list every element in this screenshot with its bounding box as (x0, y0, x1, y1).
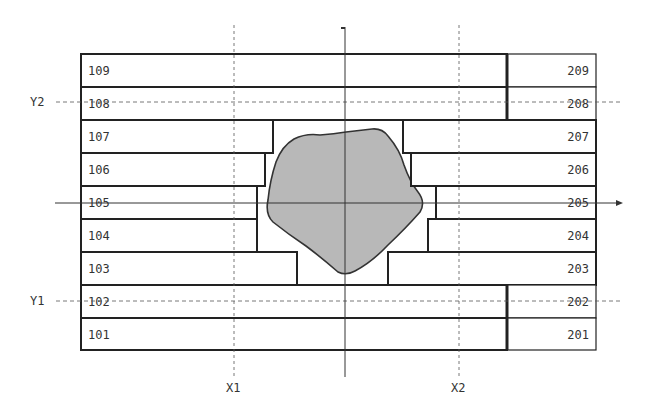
left-box-label: 108 (88, 97, 110, 111)
x1-label: X1 (226, 381, 240, 395)
right-box-204: 204 (428, 219, 596, 252)
left-box-label: 104 (88, 229, 110, 243)
right-box-206: 206 (411, 153, 596, 186)
left-box-label: 107 (88, 130, 110, 144)
axis-arrow-icon (616, 200, 623, 206)
left-box-rect (81, 318, 507, 350)
right-box-label: 202 (567, 295, 589, 309)
left-box-101: 101 (81, 318, 507, 350)
right-box-label: 204 (567, 229, 589, 243)
right-box-label: 206 (567, 163, 589, 177)
left-box-106: 106 (81, 153, 265, 186)
right-box-203: 203 (388, 252, 596, 285)
left-box-rect (81, 252, 297, 285)
left-box-label: 109 (88, 64, 110, 78)
left-box-103: 103 (81, 252, 297, 285)
left-box-rect (81, 120, 273, 153)
x2-label: X2 (451, 381, 465, 395)
y1-label: Y1 (30, 294, 44, 308)
right-box-208: 208 (507, 87, 596, 120)
axis-top-tick (341, 27, 345, 29)
left-box-108: 108 (81, 87, 507, 120)
right-box-rect (388, 252, 596, 285)
right-box-201: 201 (507, 318, 596, 350)
left-box-label: 101 (88, 328, 110, 342)
y2-label: Y2 (30, 95, 44, 109)
right-box-label: 209 (567, 64, 589, 78)
left-box-107: 107 (81, 120, 273, 153)
left-box-102: 102 (81, 285, 507, 318)
left-box-label: 106 (88, 163, 110, 177)
left-box-rect (81, 285, 507, 318)
left-box-rect (81, 54, 507, 87)
layout-diagram: 109108107106105104103102101 209208207206… (0, 0, 651, 420)
right-box-label: 203 (567, 262, 589, 276)
right-box-209: 209 (507, 54, 596, 87)
right-box-207: 207 (403, 120, 596, 153)
right-box-label: 207 (567, 130, 589, 144)
left-box-104: 104 (81, 219, 257, 252)
right-box-label: 201 (567, 328, 589, 342)
right-box-label: 208 (567, 97, 589, 111)
left-box-label: 102 (88, 295, 110, 309)
left-box-109: 109 (81, 54, 507, 87)
left-box-label: 103 (88, 262, 110, 276)
left-box-rect (81, 87, 507, 120)
right-box-202: 202 (507, 285, 596, 318)
